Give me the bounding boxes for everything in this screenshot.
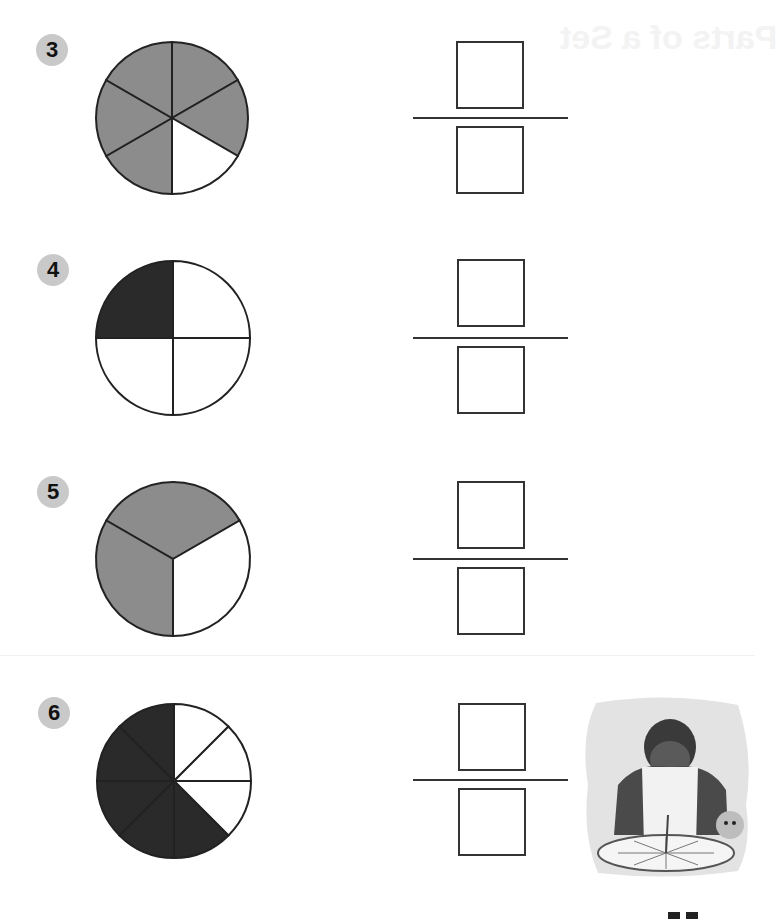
problem-number-badge: 3	[36, 34, 68, 66]
fraction-bar	[413, 117, 568, 119]
denominator-answer-box[interactable]	[456, 126, 524, 194]
fraction-circle-icon	[94, 40, 250, 196]
problem-number-badge: 4	[37, 254, 69, 286]
fraction-circle-icon	[95, 702, 253, 860]
unshaded-slice	[173, 338, 250, 415]
numerator-answer-box[interactable]	[457, 259, 525, 327]
pie-cutting-illustration	[578, 695, 752, 879]
numerator-answer-box[interactable]	[457, 481, 525, 549]
denominator-answer-box[interactable]	[458, 788, 526, 856]
shaded-slice	[96, 261, 173, 338]
denominator-answer-box[interactable]	[457, 346, 525, 414]
bleed-through-divider	[0, 655, 755, 656]
bleed-through-title: Parts of a Set	[560, 18, 777, 57]
fraction-circle-icon	[94, 259, 252, 417]
page-number-cropped	[668, 912, 700, 919]
problem-number-badge: 6	[38, 697, 70, 729]
fraction-bar	[413, 558, 568, 560]
denominator-answer-box[interactable]	[457, 567, 525, 635]
unshaded-slice	[96, 338, 173, 415]
unshaded-slice	[173, 261, 250, 338]
fraction-circle-icon	[94, 480, 252, 638]
numerator-answer-box[interactable]	[456, 41, 524, 109]
fraction-bar	[413, 779, 568, 781]
problem-number-badge: 5	[37, 476, 69, 508]
fraction-bar	[413, 337, 568, 339]
numerator-answer-box[interactable]	[458, 703, 526, 771]
